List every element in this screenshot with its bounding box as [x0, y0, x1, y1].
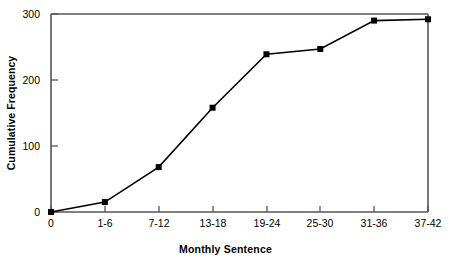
data-point: [102, 199, 108, 205]
data-point: [48, 209, 54, 215]
x-axis-title: Monthly Sentence: [0, 243, 451, 255]
data-point: [263, 51, 269, 57]
x-tick-label-25-30: 25-30: [290, 218, 350, 229]
x-tick-label-31-36: 31-36: [344, 218, 404, 229]
data-point: [371, 18, 377, 24]
x-tick-label-13-18: 13-18: [183, 218, 243, 229]
x-tick-label-7-12: 7-12: [129, 218, 189, 229]
data-point-markers: [48, 16, 431, 215]
x-tick-label-0: 0: [21, 218, 81, 229]
data-point: [210, 105, 216, 111]
cumulative-frequency-chart: Cumulative Frequency 300 200 100 0 0 1-6…: [0, 0, 451, 265]
x-tick-label-1-6: 1-6: [75, 218, 135, 229]
x-tick-label-19-24: 19-24: [237, 218, 297, 229]
data-point: [156, 164, 162, 170]
x-tick-label-37-42: 37-42: [398, 218, 451, 229]
data-point: [317, 46, 323, 52]
data-point: [425, 16, 431, 22]
cumulative-frequency-line: [51, 19, 428, 212]
